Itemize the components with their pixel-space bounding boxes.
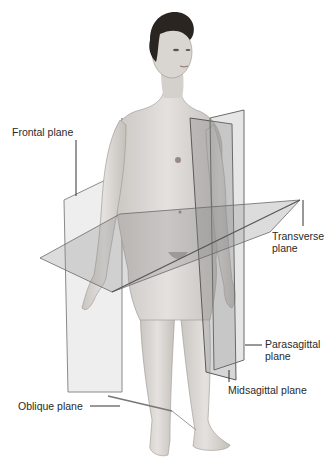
frontal-plane-label: Frontal plane xyxy=(12,126,73,138)
oblique-plane-label: Oblique plane xyxy=(18,400,83,412)
midsagittal-plane-label: Midsagittal plane xyxy=(228,384,307,396)
parasagittal-label-line2: plane xyxy=(265,350,320,362)
transverse-label-line2: plane xyxy=(272,242,324,254)
transverse-plane-label: Transverse plane xyxy=(272,230,324,254)
parasagittal-plane-label: Parasagittal plane xyxy=(265,338,320,362)
parasagittal-label-line1: Parasagittal xyxy=(265,338,320,350)
transverse-label-line1: Transverse xyxy=(272,230,324,242)
